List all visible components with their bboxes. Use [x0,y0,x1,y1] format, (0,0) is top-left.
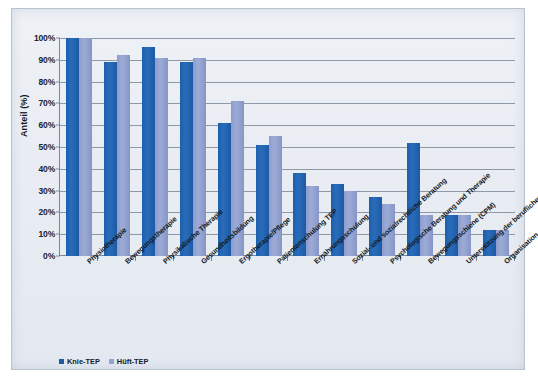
y-tick-label: 90% [39,55,55,65]
y-axis-title: Anteil (%) [19,95,29,138]
y-tick-label: 40% [39,164,55,174]
x-axis-label: Psychologische Beratung und Therapie [388,259,394,266]
y-tick-label: 80% [39,77,55,87]
y-tick-label: 50% [39,142,55,152]
legend-label: Knie-TEP [67,357,100,366]
x-axis-label: Physikalische Therapie [161,259,167,266]
y-tick-label: 20% [39,207,55,217]
bar-group [60,38,98,256]
bar-knie-tep [104,62,117,256]
y-tick-label: 10% [39,229,55,239]
y-tick-label: 100% [34,33,55,43]
x-axis-label: Sozial- und sozialrechtliche Beratung [350,259,356,266]
x-axis-label: Bewegungsschiene (CPM) [426,259,432,266]
y-tick-label: 30% [39,186,55,196]
legend-item: Knie-TEP [59,357,100,366]
legend-label: Hüft-TEP [117,357,149,366]
bar-group [98,38,136,256]
x-axis-label: Gesundheitsbildung [199,259,205,266]
y-tick-label: 70% [39,98,55,108]
x-axis-label: Organisation der Nachsorge [502,259,508,266]
y-tick-label: 60% [39,120,55,130]
y-tick-label: 0% [43,251,55,261]
x-axis-labels: PhysiotherapieBewegungstherapiePhysikali… [59,259,514,354]
bar-hueft-tep [79,38,92,256]
bar-knie-tep [180,62,193,256]
x-axis-label: Ernährungsschulung [312,259,318,266]
chart-figure: Anteil (%) 100%90%80%70%60%50%40%30%20%1… [0,0,538,380]
bar-knie-tep [66,38,79,256]
x-axis-label: Ergotherapie/Pflege [237,259,243,266]
chart-frame: Anteil (%) 100%90%80%70%60%50%40%30%20%1… [11,8,525,370]
legend-swatch-icon [59,359,64,364]
x-axis-label: Patientenschulung TEP [275,259,281,266]
bar-knie-tep [142,47,155,256]
x-axis-label: Physiotherapie [85,259,91,266]
legend-swatch-icon [109,359,114,364]
x-axis-label: Unterstützung der beruflichen Integratio… [464,259,470,266]
x-axis-label: Bewegungstherapie [123,259,129,266]
legend-item: Hüft-TEP [109,357,149,366]
chart-legend: Knie-TEPHüft-TEP [59,357,148,366]
